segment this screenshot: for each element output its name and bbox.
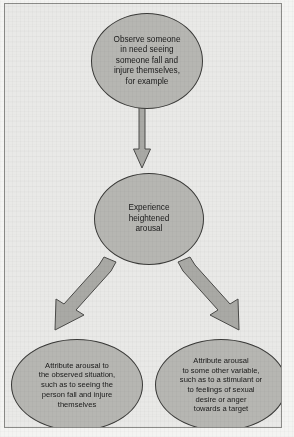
node-attribute-to-other-variable: Attribute arousal to some other variable…: [155, 339, 282, 428]
arrow-down-right-icon: [177, 262, 243, 332]
node-observe-label: Observe someone in need seeing someone f…: [106, 35, 189, 88]
arrow-arousal-to-situation: [51, 262, 117, 332]
arrow-arousal-to-other: [177, 262, 243, 332]
node-observe-someone: Observe someone in need seeing someone f…: [91, 13, 203, 109]
node-attribute-situation-label: Attribute arousal to the observed situat…: [31, 361, 123, 410]
arrow-observe-to-arousal: [133, 107, 151, 169]
node-experience-arousal: Experience heightened arousal: [94, 173, 204, 265]
node-attribute-to-situation: Attribute arousal to the observed situat…: [11, 339, 143, 428]
node-arousal-label: Experience heightened arousal: [121, 203, 178, 235]
scanned-page: Observe someone in need seeing someone f…: [0, 0, 294, 437]
arrow-down-left-icon: [51, 262, 117, 332]
node-attribute-other-label: Attribute arousal to some other variable…: [172, 356, 270, 414]
arrow-down-icon: [133, 107, 151, 169]
figure-panel: Observe someone in need seeing someone f…: [4, 3, 282, 428]
